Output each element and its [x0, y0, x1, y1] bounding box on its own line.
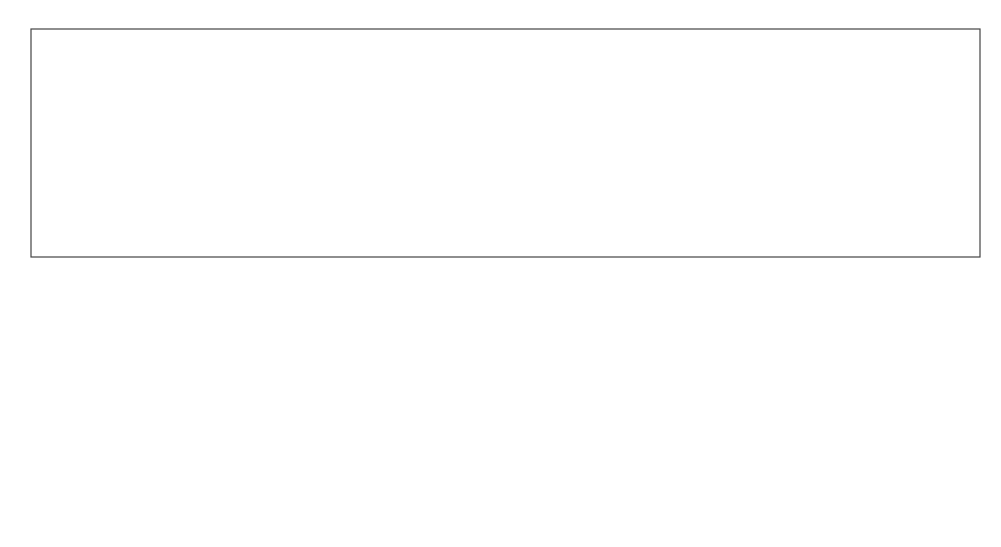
- figure-frame: [31, 29, 980, 257]
- diagram-canvas: [0, 0, 1001, 547]
- figure-border: [31, 29, 980, 256]
- outer-border: [31, 29, 980, 257]
